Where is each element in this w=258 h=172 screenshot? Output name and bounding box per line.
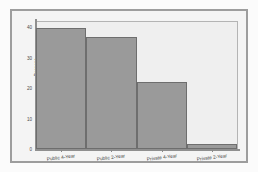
y-axis-tick-label: 40 xyxy=(27,25,32,30)
bar xyxy=(187,144,237,149)
chart-area: Percent 010203040 Public 4-YearPublic 2-… xyxy=(12,11,246,161)
x-label-slot: Public 2-Year xyxy=(86,152,136,166)
x-axis-tick-mark xyxy=(162,150,163,152)
figure-outer-frame: Percent 010203040 Public 4-YearPublic 2-… xyxy=(10,9,248,163)
bar xyxy=(36,28,86,149)
y-axis-tick-label: 30 xyxy=(27,55,32,60)
y-axis-tick-label: 0 xyxy=(29,147,32,152)
bar-slot xyxy=(187,22,237,149)
bar-series xyxy=(36,22,237,149)
y-axis-tick-labels: 010203040 xyxy=(20,21,35,149)
x-axis-tick-label: Private 4-Year xyxy=(146,153,177,163)
x-label-slot: Private 4-Year xyxy=(137,152,187,166)
bar xyxy=(137,82,187,149)
x-axis-tick-label: Public 2-Year xyxy=(97,153,126,162)
bar-slot xyxy=(86,22,136,149)
x-axis-tick-mark xyxy=(111,150,112,152)
x-axis-line xyxy=(35,149,240,151)
bar-slot xyxy=(137,22,187,149)
x-label-slot: Private 2-Year xyxy=(187,152,237,166)
x-axis-tick-mark xyxy=(61,150,62,152)
y-axis-tick-label: 10 xyxy=(27,116,32,121)
bar xyxy=(86,37,136,149)
bar-slot xyxy=(36,22,86,149)
x-axis-tick-mark xyxy=(212,150,213,152)
x-axis-tick-label: Private 2-Year xyxy=(197,153,228,163)
x-axis-tick-labels: Public 4-YearPublic 2-YearPrivate 4-Year… xyxy=(36,152,237,166)
x-label-slot: Public 4-Year xyxy=(36,152,86,166)
chart-screenshot: Percent 010203040 Public 4-YearPublic 2-… xyxy=(0,0,258,172)
y-axis-tick-label: 20 xyxy=(27,86,32,91)
x-axis-tick-label: Public 4-Year xyxy=(47,153,76,162)
